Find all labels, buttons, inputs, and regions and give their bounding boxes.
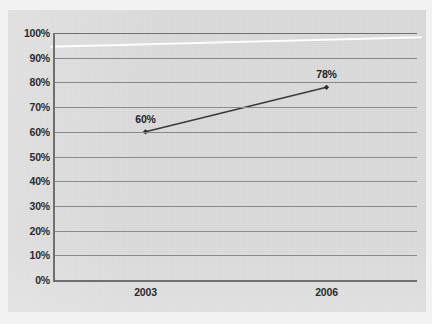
scanned-page: 0%10%20%30%40%50%60%70%80%90%100%2003200… (0, 0, 432, 324)
data-point-label: 78% (316, 68, 336, 80)
x-axis-tick-label: 2003 (134, 286, 157, 298)
x-axis-tick-label: 2006 (315, 286, 338, 298)
gridline (55, 82, 417, 83)
gridline (55, 107, 417, 108)
y-axis-tick-label: 80% (30, 76, 50, 88)
gridline (55, 255, 417, 256)
y-axis-tick-label: 100% (24, 27, 50, 39)
y-axis-tick-label: 0% (35, 274, 50, 286)
gridline (55, 206, 417, 207)
gridline (55, 33, 417, 34)
gridline (55, 58, 417, 59)
y-axis-tick-label: 50% (30, 151, 50, 163)
y-axis-tick-label: 60% (30, 126, 50, 138)
y-axis-tick-label: 30% (30, 200, 50, 212)
plot-area: 0%10%20%30%40%50%60%70%80%90%100%2003200… (53, 33, 417, 282)
series-line (146, 87, 327, 131)
gridline (55, 231, 417, 232)
gridline (55, 181, 417, 182)
gridline (55, 157, 417, 158)
y-axis-tick-label: 20% (30, 225, 50, 237)
gridline (55, 132, 417, 133)
y-axis-tick-label: 70% (30, 101, 50, 113)
y-axis-tick-label: 90% (30, 52, 50, 64)
y-axis-tick-label: 40% (30, 175, 50, 187)
data-point-label: 60% (135, 113, 155, 125)
y-axis-tick-label: 10% (30, 249, 50, 261)
data-point-marker (324, 85, 329, 90)
